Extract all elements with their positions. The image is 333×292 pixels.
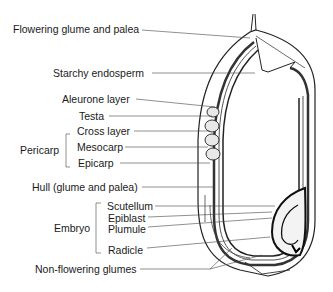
label-aleurone-layer: Aleurone layer [62,93,130,105]
label-embryo: Embryo [54,222,90,234]
label-starchy-endosperm: Starchy endosperm [53,67,144,79]
label-plumule: Plumule [108,223,146,235]
label-scutellum: Scutellum [107,200,153,212]
label-mesocarp: Mesocarp [77,141,123,153]
label-hull: Hull (glume and palea) [32,181,138,193]
pericarp-bulges [205,107,220,160]
label-cross-layer: Cross layer [77,125,130,137]
label-non-flowering-glumes: Non-flowering glumes [35,263,137,275]
label-pericarp: Pericarp [20,144,59,156]
label-flowering-glume: Flowering glume and palea [13,23,139,35]
label-epicarp: Epicarp [78,157,114,169]
awn [251,14,256,32]
label-testa: Testa [79,110,104,122]
embryo [272,188,305,256]
label-radicle: Radicle [108,244,143,256]
